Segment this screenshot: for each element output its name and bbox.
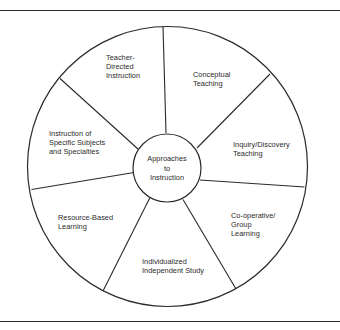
svg-text:to: to: [164, 164, 170, 173]
segment-label-line: Instruction: [106, 71, 140, 80]
segment-label-line: Conceptual: [193, 70, 231, 79]
segment-label-line: Independent Study: [142, 266, 204, 275]
segment-label-line: Learning: [58, 222, 87, 231]
hub-label-line: Instruction: [150, 173, 184, 182]
svg-text:Learning: Learning: [231, 229, 260, 238]
segment-label-line: Directed: [106, 62, 134, 71]
svg-text:Teaching: Teaching: [193, 79, 223, 88]
svg-text:Independent Study: Independent Study: [142, 266, 204, 275]
segment-label-line: Individualized: [142, 257, 187, 266]
segment-resource-based: Resource-Based Learning: [58, 213, 113, 231]
svg-text:Teaching: Teaching: [233, 149, 263, 158]
svg-text:Directed: Directed: [106, 62, 134, 71]
svg-text:and Specialties: and Specialties: [49, 147, 99, 156]
segment-label-line: Group: [231, 220, 252, 229]
approaches-wheel-diagram: Approaches to Instruction Teacher- Direc…: [0, 0, 340, 330]
segment-inquiry-discovery: Inquiry/Discovery Teaching: [233, 140, 290, 158]
segment-label-line: Teacher-: [106, 53, 135, 62]
svg-text:Specific Subjects: Specific Subjects: [49, 138, 106, 147]
spoke-lower-left: [103, 198, 150, 292]
hub-label-line: Approaches: [147, 154, 187, 163]
svg-text:Approaches: Approaches: [147, 154, 187, 163]
spoke-top: [163, 27, 166, 134]
segment-label-line: Teaching: [193, 79, 223, 88]
segment-individualized: Individualized Independent Study: [142, 257, 204, 275]
segment-conceptual: Conceptual Teaching: [193, 70, 231, 88]
segment-label-line: Instruction of: [49, 129, 92, 138]
spoke-left: [32, 173, 135, 190]
spoke-lower-right: [183, 200, 236, 290]
segment-label-line: Specific Subjects: [49, 138, 106, 147]
svg-text:Resource-Based: Resource-Based: [58, 213, 113, 222]
segment-label-line: Co-operative/: [231, 211, 276, 220]
segment-label-line: Inquiry/Discovery: [233, 140, 290, 149]
svg-text:Conceptual: Conceptual: [193, 70, 231, 79]
segment-specific-subjects: Instruction of Specific Subjects and Spe…: [49, 129, 106, 156]
segment-label-line: Learning: [231, 229, 260, 238]
spoke-right: [200, 180, 305, 187]
segment-cooperative-group: Co-operative/ Group Learning: [231, 211, 276, 238]
svg-text:Inquiry/Discovery: Inquiry/Discovery: [233, 140, 290, 149]
segment-teacher-directed: Teacher- Directed Instruction: [106, 53, 140, 80]
svg-text:Learning: Learning: [58, 222, 87, 231]
svg-text:Group: Group: [231, 220, 252, 229]
segment-label-line: Resource-Based: [58, 213, 113, 222]
segment-label-line: Teaching: [233, 149, 263, 158]
svg-text:Instruction: Instruction: [150, 173, 184, 182]
svg-text:Co-operative/: Co-operative/: [231, 211, 276, 220]
svg-text:Individualized: Individualized: [142, 257, 187, 266]
svg-text:Teacher-: Teacher-: [106, 53, 135, 62]
svg-text:Instruction of: Instruction of: [49, 129, 92, 138]
hub-label-line: to: [164, 164, 170, 173]
segment-label-line: and Specialties: [49, 147, 99, 156]
svg-text:Instruction: Instruction: [106, 71, 140, 80]
